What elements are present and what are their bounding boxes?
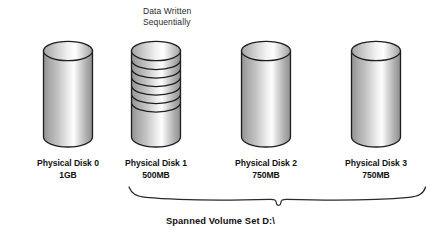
spanned-volume-brace xyxy=(124,182,430,212)
disk-name-3: Physical Disk 3 xyxy=(345,158,407,168)
cylinder-shape xyxy=(240,40,292,148)
disk-cylinder-0 xyxy=(42,40,94,148)
disk-name-2: Physical Disk 2 xyxy=(235,158,297,168)
disk-capacity-0: 1GB xyxy=(18,170,118,182)
disk-spanning-diagram: Data Written Sequentially xyxy=(0,0,441,241)
spanned-volume-set-label: Spanned Volume Set D:\ xyxy=(0,216,441,226)
disk-cylinder-1 xyxy=(130,40,182,148)
data-written-sequentially-annotation: Data Written Sequentially xyxy=(143,6,191,28)
disk-caption-3: Physical Disk 3 750MB xyxy=(326,158,426,181)
disk-cylinder-2 xyxy=(240,40,292,148)
disk-cylinder-3 xyxy=(350,40,402,148)
disk-caption-1: Physical Disk 1 500MB xyxy=(106,158,206,181)
cylinder-shape-striped xyxy=(130,40,182,148)
disk-capacity-3: 750MB xyxy=(326,170,426,182)
disk-name-0: Physical Disk 0 xyxy=(37,158,99,168)
disk-caption-2: Physical Disk 2 750MB xyxy=(216,158,316,181)
disk-caption-0: Physical Disk 0 1GB xyxy=(18,158,118,181)
disk-name-1: Physical Disk 1 xyxy=(125,158,187,168)
disk-capacity-2: 750MB xyxy=(216,170,316,182)
disk-capacity-1: 500MB xyxy=(106,170,206,182)
cylinder-shape xyxy=(350,40,402,148)
cylinder-shape xyxy=(42,40,94,148)
curly-brace-icon xyxy=(124,182,430,208)
